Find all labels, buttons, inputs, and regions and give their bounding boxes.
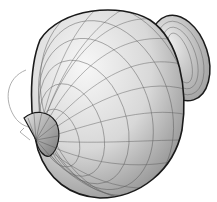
back-lobe-cone [24, 112, 59, 156]
mesh-render [0, 0, 217, 202]
